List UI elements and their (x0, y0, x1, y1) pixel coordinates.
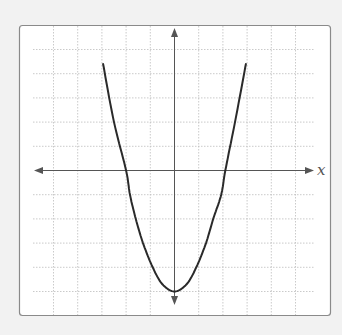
coordinate-plane: x (0, 0, 342, 335)
graph-figure: x (0, 0, 342, 335)
x-axis-label: x (317, 161, 326, 179)
